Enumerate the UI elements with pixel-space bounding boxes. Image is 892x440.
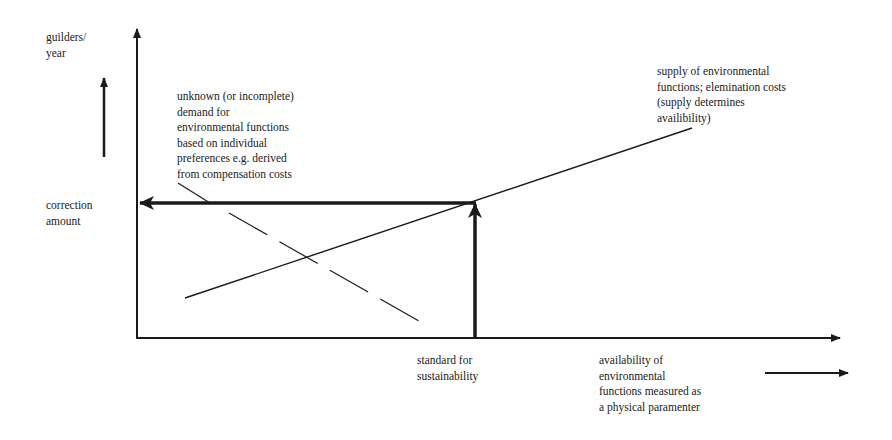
standard-label: standard for sustainability (417, 353, 478, 384)
x-axis-label: availability of environmental functions … (599, 353, 701, 415)
supply-label: supply of environmental functions; elemi… (657, 64, 786, 126)
demand-line (229, 213, 426, 325)
demand-label: unknown (or incomplete) demand for envir… (177, 89, 294, 182)
correction-amount-label: correction amount (46, 198, 93, 229)
demand-leader-line (178, 183, 210, 203)
y-axis-label: guilders/ year (46, 30, 86, 61)
diagram-canvas: guilders/ year correction amount unknown… (0, 0, 892, 440)
